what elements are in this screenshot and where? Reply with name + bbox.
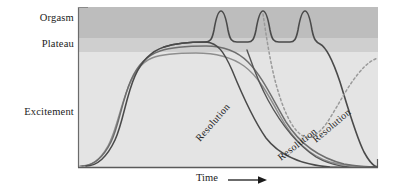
x-axis-label: Time [196, 172, 218, 183]
y-label-excitement: Excitement [24, 106, 74, 117]
y-label-plateau: Plateau [42, 38, 74, 49]
chart-svg: Resolution Resolution Resolution [0, 0, 396, 193]
y-label-orgasm: Orgasm [40, 12, 74, 23]
sexual-response-cycle-chart: Resolution Resolution Resolution Orgasm … [0, 0, 396, 193]
time-arrow-head [258, 176, 267, 184]
x-axis-arrow-group [228, 176, 267, 184]
